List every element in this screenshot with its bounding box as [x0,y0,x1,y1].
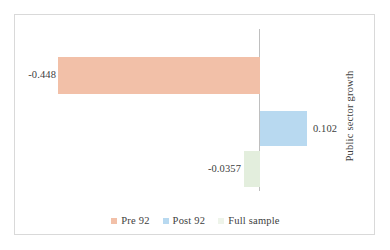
chart-legend: Pre 92 Post 92 Full sample [15,205,376,236]
chart-frame: -0.448 0.102 -0.0357 Public sector growt… [14,14,375,235]
plot-area: -0.448 0.102 -0.0357 Public sector growt… [15,15,376,205]
bar-pre-92[interactable] [58,57,260,94]
legend-swatch-icon-post-92 [163,218,169,224]
legend-swatch-icon-pre-92 [111,218,117,224]
legend-label-pre-92: Pre 92 [121,215,149,226]
legend-item-post-92[interactable]: Post 92 [163,215,206,226]
legend-item-pre-92[interactable]: Pre 92 [111,215,149,226]
legend-label-full-sample: Full sample [228,215,280,226]
legend-swatch-icon-full-sample [218,218,224,224]
data-label-pre-92: -0.448 [20,69,56,80]
data-label-full-sample: -0.0357 [197,163,241,174]
vertical-axis-title: Public sector growth [344,71,355,162]
bar-full-sample[interactable] [244,151,260,187]
chart-figure: -0.448 0.102 -0.0357 Public sector growt… [0,0,390,250]
legend-item-full-sample[interactable]: Full sample [218,215,280,226]
bar-post-92[interactable] [260,111,307,146]
legend-label-post-92: Post 92 [173,215,206,226]
axis-title-container: Public sector growth [340,41,358,191]
data-label-post-92: 0.102 [313,123,337,134]
